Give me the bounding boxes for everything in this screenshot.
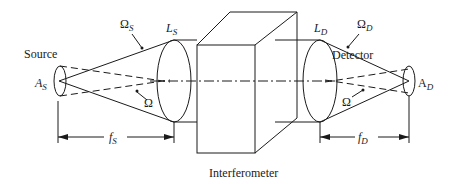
fd-right-arrowhead <box>399 134 409 140</box>
source-label: Source <box>24 47 57 61</box>
detector-ray-bottom <box>320 81 409 122</box>
solid-angle-left-label: Ω <box>144 96 153 110</box>
omega-right-dot <box>362 89 365 92</box>
fd-left-arrowhead <box>320 134 330 140</box>
source-dashed-ray-top <box>60 66 170 82</box>
detector-label: Detector <box>332 48 373 62</box>
detector-lens-label: LD <box>313 21 328 37</box>
interferometer-box <box>197 12 297 153</box>
interferometer-optics-diagram: Source Detector Interferometer AS AD LS … <box>0 0 453 184</box>
omega-right-leader <box>352 90 363 97</box>
box-front-face <box>197 45 255 153</box>
omega-s-leader <box>132 34 142 48</box>
omega-d-leader <box>348 34 359 47</box>
detector-area-label: AD <box>418 76 434 92</box>
source-dashed-ray-bottom <box>60 80 170 96</box>
interferometer-label: Interferometer <box>209 166 278 180</box>
fs-right-arrowhead <box>164 134 174 140</box>
detector-solid-angle-label: ΩD <box>357 17 373 33</box>
source-lens-label: LS <box>165 21 178 37</box>
solid-angle-right-label: Ω <box>342 95 351 109</box>
omega-left-dot <box>136 90 139 93</box>
detector-focal-length-label: fD <box>358 130 368 146</box>
fs-left-arrowhead <box>58 134 68 140</box>
box-back-edges <box>230 12 297 118</box>
source-area-label: AS <box>34 76 47 92</box>
source-focal-length-label: fS <box>109 130 117 146</box>
box-bottom-right-diagonal <box>255 118 297 153</box>
box-top-left-diagonal <box>197 12 230 45</box>
source-solid-angle-label: ΩS <box>120 17 134 33</box>
omega-s-dot <box>141 47 144 50</box>
